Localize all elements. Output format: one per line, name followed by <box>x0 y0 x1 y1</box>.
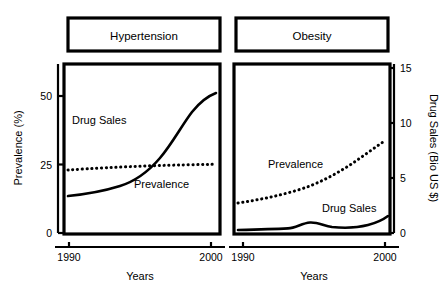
panel-title-box-obesity: Obesity <box>236 18 388 51</box>
left-y-tick-label-25: 25 <box>40 159 52 171</box>
x-axis-hypertension: 1990 2000 Years <box>55 242 225 282</box>
right-y-tick-label-10: 10 <box>400 117 412 129</box>
series-label-prevalence-obesity: Prevalence <box>268 158 323 170</box>
x-tick-label-2000-hypertension: 2000 <box>199 251 223 263</box>
left-y-tick-label-50: 50 <box>40 90 52 102</box>
figure-container: Hypertension Obesity 50 25 0 Prevalence … <box>0 0 444 291</box>
right-y-tick-label-15: 15 <box>400 62 412 74</box>
left-y-tick-label-0: 0 <box>46 227 52 239</box>
plot-panel-hypertension: Drug Sales Prevalence <box>64 64 220 234</box>
x-tick-label-1990-obesity: 1990 <box>231 251 255 263</box>
panel-title-obesity: Obesity <box>293 30 332 42</box>
series-label-drug-sales-obesity: Drug Sales <box>322 202 377 214</box>
plot-panel-obesity: Prevalence Drug Sales <box>234 64 390 234</box>
right-y-tick-label-5: 5 <box>400 172 406 184</box>
panel-title-box-hypertension: Hypertension <box>68 18 220 51</box>
right-y-axis: 15 10 5 0 Drug Sales (Bio US $) <box>389 62 440 239</box>
series-label-drug-sales-hypertension: Drug Sales <box>72 114 127 126</box>
plot-frame-hypertension <box>64 64 220 234</box>
x-tick-label-2000-obesity: 2000 <box>373 251 397 263</box>
x-axis-obesity: 1990 2000 Years <box>229 242 399 282</box>
left-y-axis: 50 25 0 Prevalence (%) <box>12 64 63 239</box>
x-tick-label-1990-hypertension: 1990 <box>57 251 81 263</box>
left-y-axis-title: Prevalence (%) <box>12 110 24 185</box>
x-axis-title-obesity: Years <box>300 270 328 282</box>
series-label-prevalence-hypertension: Prevalence <box>134 178 189 190</box>
right-y-axis-title: Drug Sales (Bio US $) <box>428 94 440 202</box>
panel-title-hypertension: Hypertension <box>110 30 178 42</box>
x-axis-title-hypertension: Years <box>126 270 154 282</box>
right-y-tick-label-0: 0 <box>400 227 406 239</box>
